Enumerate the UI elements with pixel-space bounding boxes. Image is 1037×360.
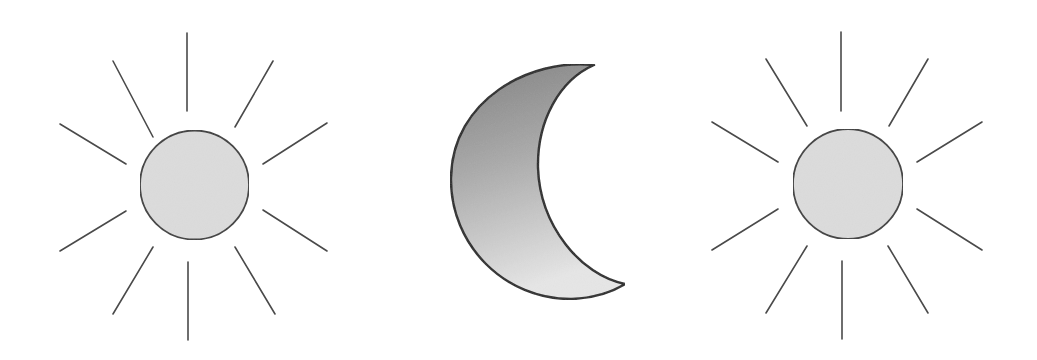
- ray-top-left: [766, 59, 807, 126]
- ray-bottom-right: [235, 247, 275, 314]
- illustration-canvas: Sun Crescent moon Sun: [0, 0, 1037, 360]
- ray-left-upper: [712, 122, 778, 162]
- sun-disc: [793, 129, 903, 239]
- sun-disc: [140, 131, 249, 240]
- ray-bottom-left: [113, 247, 153, 314]
- ray-right-lower: [917, 209, 982, 250]
- ray-top-left: [113, 61, 153, 137]
- ray-bottom-left: [766, 246, 807, 313]
- ray-bottom-right: [888, 246, 928, 313]
- ray-left-lower: [60, 211, 126, 251]
- scene-svg: [0, 0, 1037, 360]
- ray-right-upper: [263, 123, 327, 164]
- ray-top-right: [889, 59, 928, 126]
- ray-right-upper: [917, 122, 982, 162]
- crescent-moon-icon: [451, 64, 625, 299]
- ray-left-lower: [712, 209, 778, 250]
- moon-shape: [451, 64, 625, 299]
- sun-icon: [712, 32, 982, 339]
- ray-right-lower: [263, 210, 327, 251]
- ray-top-right: [235, 61, 273, 127]
- ray-left-upper: [60, 124, 126, 164]
- sun-icon: [60, 33, 327, 340]
